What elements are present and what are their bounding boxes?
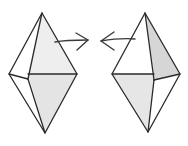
right-bipyramid (112, 13, 180, 132)
right-lower-left-face (112, 74, 154, 132)
diagram-canvas (0, 0, 188, 146)
left-bipyramid (9, 13, 77, 133)
